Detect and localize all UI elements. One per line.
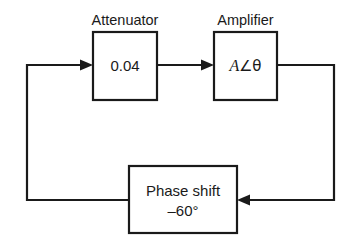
angle-icon: ∠	[239, 57, 252, 74]
attenuator-title: Attenuator	[92, 12, 159, 28]
arrowhead-into-amplifier	[201, 60, 214, 71]
block-attenuator: Attenuator 0.04	[92, 12, 159, 100]
amplifier-title: Amplifier	[217, 12, 274, 28]
block-phase-shift: Phase shift –60°	[129, 166, 237, 233]
phase-shift-box	[129, 166, 237, 233]
amplifier-value: A∠θ	[229, 57, 262, 75]
amplifier-phase-symbol: θ	[252, 57, 261, 75]
block-amplifier: Amplifier A∠θ	[214, 12, 277, 100]
block-diagram-canvas: Attenuator 0.04 Amplifier A∠θ Phase shif…	[0, 0, 352, 250]
arrowhead-into-phase-shift	[237, 195, 250, 206]
phase-shift-value-line1: Phase shift	[146, 182, 221, 199]
arrowhead-into-attenuator	[80, 60, 93, 71]
phase-shift-value-line2: –60°	[167, 202, 198, 219]
amplifier-gain-symbol: A	[229, 57, 240, 74]
attenuator-value: 0.04	[110, 57, 139, 74]
block-diagram-svg: Attenuator 0.04 Amplifier A∠θ Phase shif…	[0, 0, 352, 250]
